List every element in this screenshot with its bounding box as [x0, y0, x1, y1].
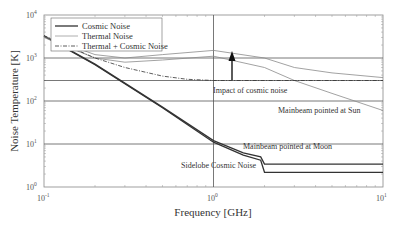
legend: Cosmic Noise Thermal Noise Thermal + Cos… [51, 18, 168, 51]
svg-text:101: 101 [376, 192, 387, 203]
legend-thermal-noise: Thermal Noise [82, 31, 133, 41]
noise-temperature-chart: Impact of cosmic noise Mainbeam pointed … [0, 0, 398, 225]
svg-text:103: 103 [26, 52, 37, 63]
svg-text:100: 100 [26, 181, 37, 192]
svg-text:10-1: 10-1 [37, 192, 50, 203]
x-axis-label: Frequency [GHz] [174, 206, 251, 218]
svg-text:102: 102 [26, 95, 37, 106]
y-axis-label: Noise Temperature [K] [8, 50, 20, 152]
svg-text:104: 104 [26, 9, 37, 20]
svg-text:100: 100 [207, 192, 218, 203]
annotation-moon: Mainbeam pointed at Moon [243, 142, 332, 151]
legend-thermal-cosmic-noise: Thermal + Cosmic Noise [82, 41, 168, 51]
legend-cosmic-noise: Cosmic Noise [82, 21, 130, 31]
annotation-impact: Impact of cosmic noise [213, 86, 288, 95]
svg-text:101: 101 [26, 138, 37, 149]
y-tick-labels: 100 101 102 103 104 [26, 9, 37, 192]
x-tick-labels: 10-1 100 101 [37, 192, 387, 203]
annotation-sun: Mainbeam pointed at Sun [278, 106, 360, 115]
annotation-sidelobe: Sidelobe Cosmic Noise [181, 161, 257, 170]
